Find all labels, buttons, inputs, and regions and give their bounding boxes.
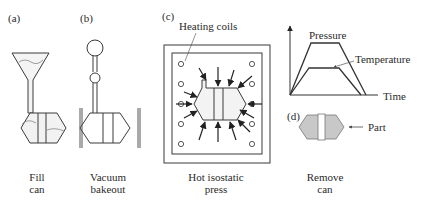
temperature-curve xyxy=(290,68,361,95)
heating-coils-label: Heating coils xyxy=(179,20,237,32)
panel-a-caption-1: Fill xyxy=(29,171,44,183)
can-shape xyxy=(80,113,130,143)
finished-part-shape xyxy=(299,114,344,140)
part-label: Part xyxy=(368,121,386,133)
can-shape-compressed xyxy=(194,80,246,120)
panel-d-caption-1: Remove xyxy=(307,171,344,183)
panel-a-tag: (a) xyxy=(8,12,21,25)
panel-d-tag: (d) xyxy=(287,110,300,123)
vacuum-bulb-icon xyxy=(87,40,103,113)
temperature-label: Temperature xyxy=(355,53,411,65)
panel-b-tag: (b) xyxy=(80,12,93,25)
pressure-label: Pressure xyxy=(309,29,346,41)
hip-cycle-graph: Pressure Temperature Time xyxy=(290,26,411,102)
time-label: Time xyxy=(383,90,406,102)
panel-d-caption-2: can xyxy=(317,183,333,195)
panel-b-caption-1: Vacuum xyxy=(90,171,126,183)
funnel-icon xyxy=(12,53,49,113)
panel-a-fill-can: (a) Fill can xyxy=(8,12,66,195)
panel-c-hot-isostatic-press: (c) Heating coils xyxy=(162,10,270,195)
panel-c-tag: (c) xyxy=(162,10,175,23)
heating-coils-leader xyxy=(185,33,196,61)
hip-process-diagram: (a) Fill can (b) xyxy=(0,0,422,212)
panel-c-caption-1: Hot isostatic xyxy=(188,171,243,183)
can-shape xyxy=(21,113,66,143)
panel-b-caption-2: bakeout xyxy=(91,183,126,195)
panel-d-remove-can: (d) Part Remove can xyxy=(287,110,386,195)
panel-b-vacuum-bakeout: (b) Vacuum bakeout xyxy=(80,12,140,195)
panel-c-caption-2: press xyxy=(205,183,228,195)
panel-a-caption-2: can xyxy=(29,183,45,195)
